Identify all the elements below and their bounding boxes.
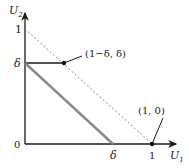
utility-diagram: U2 1 δ 0 δ 1 U1 (1−δ, δ) (1, 0) [0, 0, 189, 168]
x-tick-delta: δ [110, 149, 117, 162]
x-intercept-leader-line [152, 118, 163, 144]
x-intercept-point-label: (1, 0) [138, 105, 165, 116]
y-tick-one: 1 [15, 23, 22, 36]
y-axis-label: U2 [9, 4, 23, 19]
x-axis-label: U1 [170, 149, 184, 164]
origin-label: 0 [14, 139, 20, 150]
corner-leader-line [64, 56, 82, 63]
corner-point-label: (1−δ, δ) [85, 48, 126, 59]
dashed-frontier-line [25, 29, 152, 144]
x-tick-one: 1 [149, 150, 155, 161]
y-tick-delta: δ [14, 57, 21, 70]
delta-gray-line [25, 63, 113, 144]
